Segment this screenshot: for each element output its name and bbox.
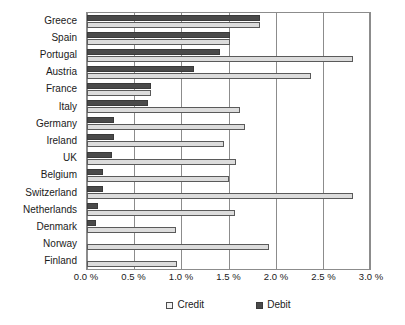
bar-credit [87, 90, 151, 96]
y-axis-tick-label: Finland [0, 253, 82, 270]
bar-debit [87, 49, 220, 55]
bar-group [87, 150, 370, 167]
bar-group [87, 30, 370, 47]
bar-debit [87, 15, 260, 21]
bar-debit [87, 220, 96, 226]
y-axis-tick-label: Denmark [0, 218, 82, 235]
bar-debit [87, 203, 98, 209]
bar-group [87, 81, 370, 98]
bar-group [87, 235, 370, 252]
bar-debit [87, 83, 151, 89]
legend-swatch-debit-icon [256, 302, 263, 309]
x-axis-tick-label: 2.0 % [264, 272, 288, 282]
y-axis-tick-label: Switzerland [0, 184, 82, 201]
y-axis-tick-label: France [0, 81, 82, 98]
bar-credit [87, 159, 236, 165]
bar-group [87, 132, 370, 149]
y-axis-tick-label: Greece [0, 12, 82, 29]
bar-credit [87, 73, 311, 79]
bar-group [87, 252, 370, 269]
bar-credit [87, 210, 235, 216]
bar-group [87, 201, 370, 218]
bar-groups [87, 13, 370, 269]
bar-credit [87, 141, 224, 147]
y-axis-tick-label: UK [0, 150, 82, 167]
y-axis-tick-label: Austria [0, 64, 82, 81]
bar-group [87, 167, 370, 184]
bar-group [87, 98, 370, 115]
bar-debit [87, 169, 103, 175]
legend-label: Credit [177, 300, 204, 310]
x-axis-tick-label: 1.5 % [216, 272, 240, 282]
bar-credit [87, 261, 177, 267]
bar-debit [87, 134, 114, 140]
bar-group [87, 218, 370, 235]
x-axis-tick-label: 1.0 % [169, 272, 193, 282]
bar-credit [87, 56, 353, 62]
legend-label: Debit [267, 300, 290, 310]
bar-credit [87, 39, 230, 45]
plot-area [86, 12, 371, 270]
bar-credit [87, 244, 269, 250]
x-axis-tick-label: 3.0 % [359, 272, 383, 282]
y-axis-tick-label: Ireland [0, 132, 82, 149]
bar-debit [87, 117, 114, 123]
y-axis-tick-label: Netherlands [0, 201, 82, 218]
bar-group [87, 184, 370, 201]
chart-legend: CreditDebit [86, 300, 371, 310]
bar-credit [87, 22, 260, 28]
y-axis-tick-label: Spain [0, 29, 82, 46]
y-axis-category-labels: GreeceSpainPortugalAustriaFranceItalyGer… [0, 12, 82, 270]
x-axis-tick-label: 0.0 % [74, 272, 98, 282]
x-axis-tick-label: 2.5 % [311, 272, 335, 282]
bar-group [87, 64, 370, 81]
bar-group [87, 115, 370, 132]
y-axis-tick-label: Portugal [0, 46, 82, 63]
y-axis-tick-label: Norway [0, 236, 82, 253]
bar-debit [87, 152, 112, 158]
bar-credit [87, 193, 353, 199]
bar-debit [87, 32, 230, 38]
y-axis-tick-label: Germany [0, 115, 82, 132]
legend-item-debit: Debit [256, 300, 290, 310]
x-axis-tick-label: 0.5 % [121, 272, 145, 282]
bar-debit [87, 186, 103, 192]
bar-debit [87, 100, 148, 106]
bar-credit [87, 176, 229, 182]
legend-item-credit: Credit [166, 300, 204, 310]
bar-credit [87, 227, 176, 233]
bar-credit [87, 124, 245, 130]
x-axis-tick-labels: 0.0 %0.5 %1.0 %1.5 %2.0 %2.5 %3.0 % [86, 272, 371, 288]
y-axis-tick-label: Belgium [0, 167, 82, 184]
bar-debit [87, 66, 194, 72]
bar-chart: GreeceSpainPortugalAustriaFranceItalyGer… [0, 0, 405, 325]
bar-group [87, 13, 370, 30]
bar-credit [87, 107, 240, 113]
legend-swatch-credit-icon [166, 302, 173, 309]
bar-group [87, 47, 370, 64]
y-axis-tick-label: Italy [0, 98, 82, 115]
